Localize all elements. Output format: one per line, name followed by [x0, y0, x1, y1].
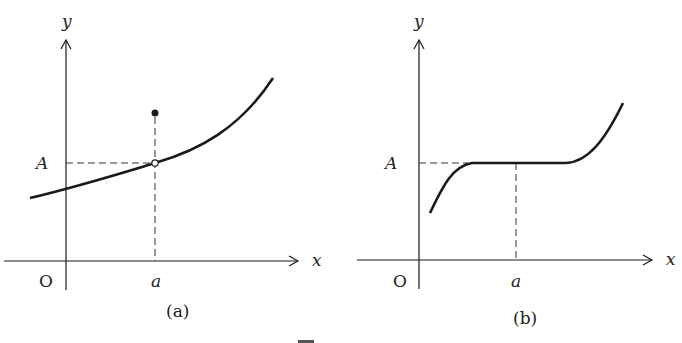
y-tick-a: A: [34, 153, 48, 173]
panel-b: y x O a A (b): [357, 11, 676, 328]
x-tick-b: a: [511, 271, 521, 291]
y-label-a: y: [61, 11, 72, 31]
caption-a: (a): [166, 301, 189, 321]
panel-a: y x O a A (a): [4, 11, 322, 321]
origin-label-a: O: [39, 271, 53, 291]
x-label-a: x: [312, 250, 322, 270]
y-label-b: y: [413, 11, 424, 31]
origin-label-b: O: [393, 271, 407, 291]
filled-point-a: [152, 110, 159, 117]
open-point-a: [152, 160, 158, 166]
figure-canvas: y x O a A (a) y x O a A (b): [0, 0, 682, 343]
y-tick-b: A: [383, 153, 397, 173]
x-label-b: x: [666, 249, 676, 269]
x-tick-a: a: [151, 271, 161, 291]
curve-b: [430, 103, 623, 213]
caption-b: (b): [513, 308, 537, 328]
